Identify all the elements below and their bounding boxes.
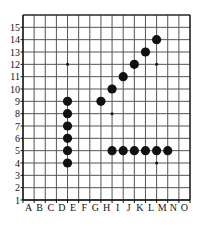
y-tick-label: 4 [15, 158, 20, 169]
x-tick-label: A [25, 202, 33, 213]
chart-container: 123456789101112131415ABCDEFGHIJKLMNO [0, 0, 201, 227]
x-tick-label: L [148, 202, 154, 213]
y-tick-label: 13 [10, 47, 20, 58]
y-tick-label: 11 [10, 71, 20, 82]
x-tick-label: J [127, 202, 131, 213]
x-tick-label: K [136, 202, 144, 213]
y-tick-label: 8 [15, 108, 20, 119]
x-tick-label: B [36, 202, 43, 213]
x-tick-label: M [158, 202, 167, 213]
data-point-large [107, 146, 116, 155]
data-point-small [155, 63, 158, 66]
data-point-small [111, 112, 114, 115]
x-tick-label: G [92, 202, 99, 213]
y-tick-label: 10 [10, 84, 20, 95]
x-tick-label: E [70, 202, 76, 213]
y-tick-label: 6 [15, 133, 20, 144]
data-point-large [130, 146, 139, 155]
x-tick-label: N [170, 202, 177, 213]
x-tick-label: O [181, 202, 188, 213]
y-tick-label: 15 [10, 22, 20, 33]
data-point-large [63, 158, 72, 167]
data-point-large [119, 146, 128, 155]
x-tick-label: D [58, 202, 65, 213]
y-tick-label: 7 [15, 121, 20, 132]
plot-background [23, 15, 190, 200]
data-point-large [141, 47, 150, 56]
data-point-large [152, 35, 161, 44]
data-point-large [96, 97, 105, 106]
y-axis-numbers: 123456789101112131415 [10, 22, 23, 206]
data-point-large [63, 97, 72, 106]
x-tick-label: H [103, 202, 110, 213]
data-point-large [163, 146, 172, 155]
x-tick-label: F [81, 202, 87, 213]
data-point-small [155, 162, 158, 165]
data-point-large [152, 146, 161, 155]
y-tick-label: 5 [15, 145, 20, 156]
data-point-small [66, 63, 69, 66]
data-point-large [63, 134, 72, 143]
data-point-large [141, 146, 150, 155]
x-tick-label: I [116, 202, 119, 213]
data-point-large [107, 84, 116, 93]
data-point-large [63, 146, 72, 155]
x-tick-label: C [47, 202, 54, 213]
data-point-large [119, 72, 128, 81]
y-tick-label: 9 [15, 96, 20, 107]
y-tick-label: 3 [15, 170, 20, 181]
scatter-plot: 123456789101112131415ABCDEFGHIJKLMNO [0, 0, 201, 227]
data-point-large [130, 60, 139, 69]
y-tick-label: 1 [15, 195, 20, 206]
x-axis-letters: ABCDEFGHIJKLMNO [23, 200, 190, 213]
data-point-large [63, 121, 72, 130]
y-tick-label: 12 [10, 59, 20, 70]
data-point-large [63, 109, 72, 118]
y-tick-label: 14 [10, 34, 20, 45]
y-tick-label: 2 [15, 182, 20, 193]
